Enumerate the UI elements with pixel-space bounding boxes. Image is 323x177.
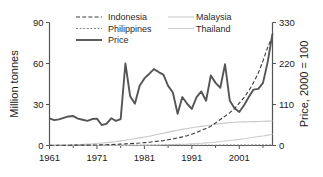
legend-label-philippines: Philippines — [108, 24, 152, 34]
y-tick-label-left: 0 — [38, 140, 43, 151]
line-chart: 0306090011022033019611971198119912001 Mi… — [0, 0, 323, 177]
y-tick-label-right: 0 — [279, 140, 284, 151]
y-tick-label-right: 110 — [279, 99, 294, 110]
chart-legend: IndonesiaPhilippinesPriceMalaysiaThailan… — [76, 12, 232, 45]
y-tick-label-right: 330 — [279, 17, 295, 28]
axes — [46, 23, 276, 150]
series-line-thailand — [50, 134, 273, 145]
series-line-price — [50, 34, 273, 125]
legend-label-thailand: Thailand — [196, 24, 231, 34]
y-tick-label-left: 90 — [33, 17, 44, 28]
chart-container: 0306090011022033019611971198119912001 Mi… — [0, 0, 323, 177]
x-tick-label: 2001 — [229, 152, 250, 163]
x-tick-label: 1981 — [134, 152, 155, 163]
data-series — [50, 34, 273, 146]
x-tick-label: 1971 — [86, 152, 107, 163]
y-axis-label-left: Million tonnes — [8, 50, 20, 118]
y-tick-label-right: 220 — [279, 58, 295, 69]
series-line-indonesia — [50, 36, 273, 145]
y-axis-label-right: Price, 2000 = 100 — [298, 41, 310, 128]
legend-label-malaysia: Malaysia — [196, 12, 232, 22]
legend-label-indonesia: Indonesia — [108, 12, 147, 22]
x-tick-label: 1961 — [39, 152, 60, 163]
axis-titles: Million tonnesPrice, 2000 = 100 — [8, 41, 310, 128]
y-tick-label-left: 30 — [33, 99, 44, 110]
y-tick-label-left: 60 — [33, 58, 44, 69]
legend-label-price: Price — [108, 35, 129, 45]
series-line-malaysia — [50, 121, 273, 145]
x-tick-label: 1991 — [181, 152, 202, 163]
